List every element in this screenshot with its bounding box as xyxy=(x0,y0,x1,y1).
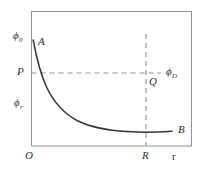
label-phi-d-subscript: D xyxy=(172,72,177,79)
label-axis-r: r xyxy=(172,151,176,162)
label-phi-zero-symbol: ϕ xyxy=(13,29,19,41)
label-point-p: P xyxy=(17,66,24,77)
label-phi-r-subscript: r xyxy=(20,103,23,110)
label-phi-r: ϕr xyxy=(14,97,22,108)
label-point-q: Q xyxy=(149,76,157,87)
label-phi-zero-subscript: 0 xyxy=(19,36,22,43)
label-point-a: A xyxy=(38,36,45,47)
potential-vs-radius-figure: ϕ0 A P ϕr Q ϕD B O R r xyxy=(0,0,212,181)
label-tick-r-capital: R xyxy=(142,150,149,161)
label-point-b: B xyxy=(178,124,185,135)
label-phi-zero: ϕ0 xyxy=(13,30,22,41)
label-phi-d-symbol: ϕ xyxy=(166,65,172,77)
axis-frame xyxy=(32,12,192,147)
label-phi-d: ϕD xyxy=(166,66,177,77)
label-origin: O xyxy=(25,150,33,161)
label-phi-r-symbol: ϕ xyxy=(14,96,20,108)
